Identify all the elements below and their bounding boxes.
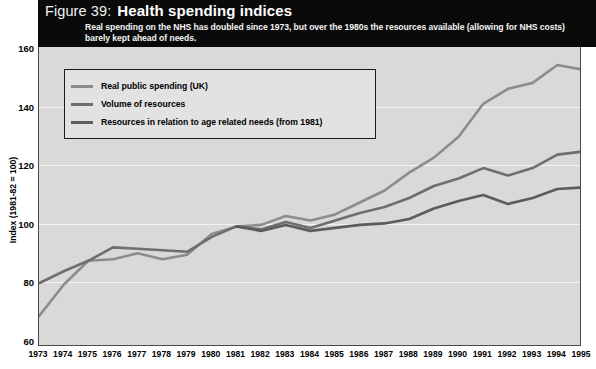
x-axis: 1973197419751976197719781979198019811982… (38, 349, 581, 367)
x-tick-1992: 1992 (497, 349, 516, 359)
legend-label-0: Real public spending (UK) (101, 81, 208, 91)
x-tick-1990: 1990 (448, 349, 467, 359)
x-tick-1980: 1980 (201, 349, 220, 359)
figure-header-band: Figure 39: Health spending indices Real … (38, 0, 596, 47)
x-tick-1989: 1989 (423, 349, 442, 359)
y-tick-80: 80 (23, 277, 34, 288)
y-tick-160: 160 (18, 43, 34, 54)
figure-health-spending-indices: Figure 39: Health spending indices Real … (0, 0, 596, 369)
y-tick-60: 60 (23, 336, 34, 347)
legend-swatch-icon-2 (71, 121, 93, 124)
x-tick-1995: 1995 (571, 349, 590, 359)
x-tick-1973: 1973 (28, 349, 47, 359)
x-tick-1976: 1976 (102, 349, 121, 359)
x-tick-1978: 1978 (152, 349, 171, 359)
x-tick-1984: 1984 (300, 349, 319, 359)
y-tick-100: 100 (18, 218, 34, 229)
legend-label-2: Resources in relation to age related nee… (101, 117, 322, 127)
series-line-resources-age-related-needs (236, 188, 581, 231)
x-tick-1975: 1975 (78, 349, 97, 359)
y-axis: 160 140 120 100 80 60 Index (1981-82 = 1… (0, 47, 38, 346)
x-tick-1986: 1986 (349, 349, 368, 359)
legend-label-1: Volume of resources (101, 99, 185, 109)
legend-swatch-icon-0 (71, 85, 93, 88)
x-tick-1979: 1979 (177, 349, 196, 359)
y-axis-title: Index (1981-82 = 100) (8, 100, 18, 300)
figure-number: Figure 39: (45, 4, 111, 19)
legend: Real public spending (UK) Volume of reso… (64, 69, 376, 139)
legend-item-volume-of-resources: Volume of resources (71, 95, 367, 113)
x-tick-1994: 1994 (547, 349, 566, 359)
legend-item-resources-age-related-needs: Resources in relation to age related nee… (71, 113, 367, 131)
x-tick-1974: 1974 (53, 349, 72, 359)
x-tick-1982: 1982 (251, 349, 270, 359)
plot-area: Real public spending (UK) Volume of reso… (38, 47, 581, 346)
x-tick-1985: 1985 (325, 349, 344, 359)
y-tick-120: 120 (18, 160, 34, 171)
legend-item-real-public-spending: Real public spending (UK) (71, 77, 367, 95)
x-tick-1981: 1981 (226, 349, 245, 359)
x-tick-1983: 1983 (275, 349, 294, 359)
page-title: Health spending indices (117, 3, 292, 19)
legend-swatch-icon-1 (71, 103, 93, 106)
y-tick-140: 140 (18, 101, 34, 112)
x-tick-1977: 1977 (127, 349, 146, 359)
x-tick-1988: 1988 (399, 349, 418, 359)
x-tick-1993: 1993 (522, 349, 541, 359)
x-tick-1991: 1991 (473, 349, 492, 359)
x-tick-1987: 1987 (374, 349, 393, 359)
figure-title-row: Figure 39: Health spending indices (45, 3, 590, 19)
figure-subtitle: Real spending on the NHS has doubled sin… (85, 22, 585, 44)
series-line-volume-of-resources (39, 152, 581, 284)
